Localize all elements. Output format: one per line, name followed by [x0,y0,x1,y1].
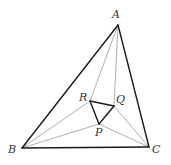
label-C: C [152,143,161,156]
segment-AR [90,25,118,101]
triangle-diagram: A B C R Q P [0,0,171,165]
segment-BR [22,101,90,148]
label-B: B [7,143,16,156]
thin-cevian-lines [22,25,149,148]
label-P: P [94,126,103,139]
thick-triangle-edges [22,25,149,148]
segment-CP [99,124,149,147]
label-Q: Q [116,93,125,106]
edge-AB [22,25,118,148]
edge-BC [22,147,149,148]
edge-RP [90,101,99,124]
label-A: A [111,8,120,21]
segment-BP [22,124,99,148]
edge-QR [90,101,114,106]
edge-PQ [99,106,114,124]
label-R: R [78,91,87,104]
